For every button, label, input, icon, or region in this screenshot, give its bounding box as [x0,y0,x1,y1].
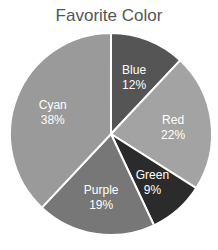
slice-percent-cyan: 38% [41,113,65,127]
slice-percent-green: 9% [144,183,162,197]
slice-label-red: Red [162,113,184,127]
slice-percent-purple: 19% [89,198,113,212]
slice-percent-red: 22% [161,128,185,142]
slice-percent-blue: 12% [122,78,146,92]
slice-label-blue: Blue [122,63,146,77]
slice-label-cyan: Cyan [39,98,67,112]
slice-label-purple: Purple [84,183,119,197]
pie-chart: Blue12%Red22%Green9%Purple19%Cyan38% [0,0,218,250]
slice-label-green: Green [136,168,169,182]
